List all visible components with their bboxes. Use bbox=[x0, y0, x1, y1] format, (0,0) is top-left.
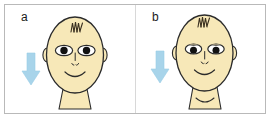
right-eye-a bbox=[78, 45, 95, 55]
panel-b: b bbox=[136, 5, 266, 113]
panel-a-label: a bbox=[21, 11, 28, 23]
panel-b-label: b bbox=[152, 11, 159, 23]
panel-a: a bbox=[5, 5, 135, 113]
left-eye-a bbox=[55, 45, 72, 55]
down-arrow-icon-a bbox=[22, 53, 40, 85]
figure-container: a bbox=[0, 0, 270, 118]
down-arrow-icon-b bbox=[151, 51, 169, 83]
